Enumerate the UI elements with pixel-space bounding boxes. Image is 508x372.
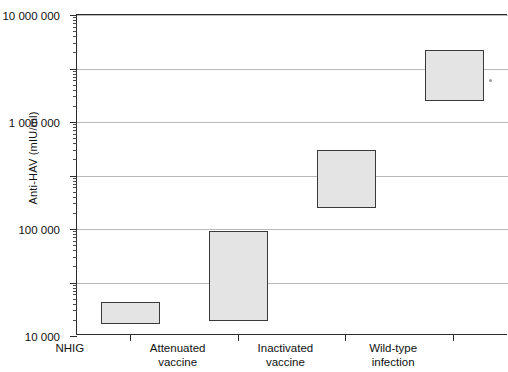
x-axis-line [76,334,507,335]
x-axis-tick-label-line: vaccine [225,356,345,370]
y-axis-tick-label: 100 000 [18,224,60,236]
gridline [77,15,508,16]
y-axis-minor-tick [73,288,77,289]
gridline [77,122,508,123]
y-axis-minor-tick [73,181,77,182]
y-axis-minor-tick [73,304,77,305]
y-axis-minor-tick [73,36,77,37]
y-axis-minor-tick [73,134,77,135]
y-axis-minor-tick [73,143,77,144]
y-axis-title: Anti-HAV (mIU/ml) [27,78,39,238]
y-axis-minor-tick [73,150,77,151]
y-axis-minor-tick [73,74,77,75]
gridline [77,283,508,284]
y-axis-minor-tick [73,85,77,86]
y-axis-minor-tick [73,31,77,32]
x-axis-tick-label-line: Wild-type [333,342,453,356]
y-axis-minor-tick [73,17,77,18]
y-axis-minor-tick [73,184,77,185]
chart-figure: Anti-HAV (mIU/ml) 10 000 0001 000 000100… [0,0,508,372]
y-axis-minor-tick [73,320,77,321]
y-axis-minor-tick [73,197,77,198]
y-axis-major-tick: 10 000 000 [70,15,77,16]
y-axis-minor-tick [73,241,77,242]
y-axis-major-tick: 1000 [70,229,77,230]
x-axis-tick-label: NHIG [10,342,130,356]
y-axis-major-tick: 10 000 [70,176,77,177]
y-axis-minor-tick [73,250,77,251]
y-axis-minor-tick [73,285,77,286]
y-axis-minor-tick [73,138,77,139]
y-axis-minor-tick [73,266,77,267]
x-axis-tick-label-line: vaccine [118,356,238,370]
y-axis-tick-label: 10 000 000 [2,10,60,22]
y-axis-major-tick: 100 000 [70,122,77,123]
x-axis-tick-label: Inactivatedvaccine [225,342,345,369]
x-axis-tick [238,334,239,341]
y-axis-minor-tick [73,127,77,128]
data-box-attenuated-vaccine [209,231,268,321]
y-axis-minor-tick [73,178,77,179]
y-axis-minor-tick [73,71,77,72]
y-axis-minor-tick [73,27,77,28]
y-axis-major-tick: 1 000 000 [70,69,77,70]
y-axis-minor-tick [73,77,77,78]
x-axis-tick-label-line: Attenuated [118,342,238,356]
y-axis-minor-tick [73,80,77,81]
y-axis-minor-tick [73,245,77,246]
y-axis-minor-tick [73,130,77,131]
x-axis-tick [453,334,454,341]
data-box-inactivated-vaccine [317,150,376,208]
y-axis-minor-tick [73,213,77,214]
x-axis-tick-label: Attenuatedvaccine [118,342,238,369]
plot-area: 10 000 0001 000 000100 00010 00010001001… [76,14,507,335]
x-axis-tick-label-line: NHIG [10,342,130,356]
y-axis-minor-tick [73,234,77,235]
y-axis-minor-tick [73,90,77,91]
data-box-nhig [101,302,160,324]
y-axis-minor-tick [73,203,77,204]
y-axis-minor-tick [73,299,77,300]
x-axis-tick-label: Wild-typeinfection [333,342,453,369]
gridline [77,229,508,230]
x-axis-tick-label-line: infection [333,356,453,370]
x-axis-tick [130,334,131,341]
y-axis-minor-tick [73,96,77,97]
y-axis-minor-tick [73,52,77,53]
y-axis-minor-tick [73,291,77,292]
y-axis-minor-tick [73,231,77,232]
x-axis-tick [345,334,346,341]
y-axis-minor-tick [73,237,77,238]
x-axis-tick-label-line: Inactivated [225,342,345,356]
y-axis-minor-tick [73,20,77,21]
y-axis-minor-tick [73,124,77,125]
y-axis-minor-tick [73,257,77,258]
y-axis-major-tick: 10 [70,336,77,337]
gridline [77,176,508,177]
y-axis-minor-tick [73,43,77,44]
y-axis-minor-tick [73,187,77,188]
y-axis-minor-tick [73,310,77,311]
y-axis-minor-tick [73,23,77,24]
stray-speck-mark [489,79,492,82]
y-axis-minor-tick [73,294,77,295]
y-axis-minor-tick [73,159,77,160]
y-axis-minor-tick [73,106,77,107]
y-axis-major-tick: 100 [70,283,77,284]
data-box-wild-type-infection [425,50,484,101]
y-axis-tick-label: 1 000 000 [9,117,60,129]
y-axis-minor-tick [73,192,77,193]
